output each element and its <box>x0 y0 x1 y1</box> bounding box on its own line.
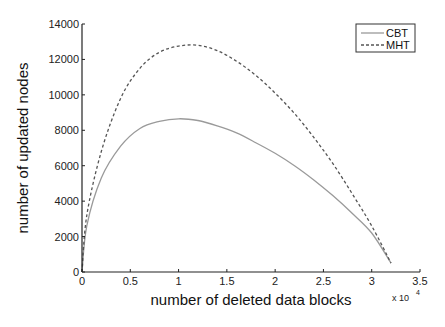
y-tick-label: 10000 <box>48 89 79 101</box>
legend-cbt-label: CBT <box>386 27 408 39</box>
series-mht-line <box>82 45 391 272</box>
y-tick-label: 2000 <box>55 231 79 243</box>
axes <box>82 24 420 272</box>
axis-ticks: 00.511.522.533.5020004000600080001000012… <box>48 18 427 287</box>
x-multiplier: x 10 4 <box>392 289 420 303</box>
x-tick-label: 3 <box>369 275 375 287</box>
y-tick-label: 0 <box>73 266 79 278</box>
x-multiplier-exponent: 4 <box>416 289 420 296</box>
legend-mht-label: MHT <box>386 39 410 51</box>
x-tick-label: 1.5 <box>219 275 234 287</box>
y-tick-label: 6000 <box>55 160 79 172</box>
x-axis-label: number of deleted data blocks <box>151 291 352 308</box>
y-axis-label: number of updated nodes <box>14 63 31 234</box>
legend: CBT MHT <box>356 24 415 52</box>
x-tick-label: 3.5 <box>412 275 427 287</box>
y-tick-label: 4000 <box>55 195 79 207</box>
x-tick-label: 2 <box>272 275 278 287</box>
x-tick-label: 0.5 <box>123 275 138 287</box>
line-chart: 00.511.522.533.5020004000600080001000012… <box>0 0 445 327</box>
y-tick-label: 14000 <box>48 18 79 30</box>
x-tick-label: 1 <box>176 275 182 287</box>
plot-area <box>82 45 391 272</box>
y-tick-label: 8000 <box>55 124 79 136</box>
x-multiplier-base: x 10 <box>392 293 409 303</box>
y-tick-label: 12000 <box>48 53 79 65</box>
series-cbt-line <box>82 119 391 272</box>
x-tick-label: 2.5 <box>316 275 331 287</box>
x-tick-label: 0 <box>79 275 85 287</box>
